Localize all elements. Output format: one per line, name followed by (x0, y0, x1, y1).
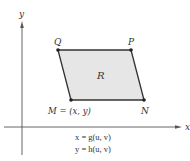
x-axis-arrow-icon (175, 125, 182, 129)
vertex-label-n: N (140, 106, 150, 116)
vertex-label-q: Q (54, 37, 62, 47)
x-axis-label: x (185, 122, 190, 132)
vertex-label-m: M = (x, y) (47, 106, 91, 116)
vertex-n (142, 98, 146, 102)
vertex-p (129, 48, 133, 52)
vertex-label-p: P (127, 37, 135, 47)
vertex-q (56, 48, 60, 52)
transformation-diagram: y x R Q P M = (x, y) N x = g(u, v) y = h… (0, 0, 190, 161)
region-label: R (96, 70, 105, 81)
y-axis-label: y (18, 9, 25, 19)
vertex-m (69, 98, 73, 102)
equation-y: y = h(u, v) (75, 144, 111, 154)
equation-x: x = g(u, v) (75, 132, 111, 142)
y-axis-arrow-icon (20, 21, 24, 28)
